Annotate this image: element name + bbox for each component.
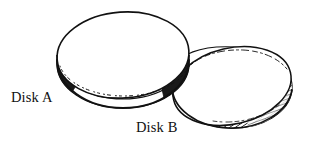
disk-a-label: Disk A — [11, 90, 53, 105]
disks-figure: Disk A Disk B — [0, 0, 311, 153]
disk-b-label: Disk B — [136, 120, 178, 135]
